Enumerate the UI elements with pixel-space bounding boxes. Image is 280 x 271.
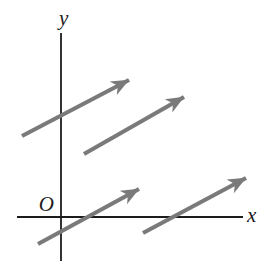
vector-arrow-4: [143, 178, 246, 233]
origin-label: O: [39, 192, 54, 216]
vector-diagram: y O x: [0, 0, 280, 271]
y-axis-label: y: [57, 6, 69, 30]
vector-figure-canvas: y O x: [0, 0, 280, 271]
vectors-group: [22, 80, 246, 244]
vector-arrow-1: [22, 80, 129, 136]
x-axis-label: x: [246, 203, 257, 227]
vector-arrow-2: [84, 97, 184, 154]
